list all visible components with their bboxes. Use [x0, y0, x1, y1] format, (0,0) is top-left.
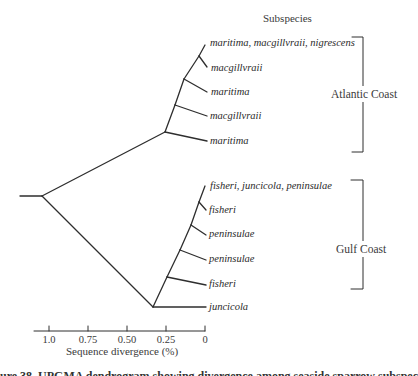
- axis-tick-label: 0.25: [157, 334, 175, 345]
- axis-tick-label: 0.50: [118, 334, 136, 345]
- subspecies-header: Subspecies: [263, 12, 312, 24]
- leaf-label: peninsulae: [209, 228, 255, 240]
- axis-title: Sequence divergence (%): [66, 345, 178, 357]
- axis-tick-label: 0.75: [79, 334, 97, 345]
- figure-caption: ure 38. UPGMA dendrogram showing diverge…: [0, 367, 418, 376]
- leaf-label: maritima: [210, 135, 249, 147]
- gulf-coast-label: Gulf Coast: [336, 241, 386, 257]
- leaf-label: fisheri: [209, 204, 236, 216]
- leaf-label: fisheri, juncicola, peninsulae: [210, 180, 332, 192]
- leaf-label: peninsulae: [209, 253, 255, 265]
- dendrogram: [0, 0, 418, 376]
- branch-gulf: [42, 196, 153, 307]
- branch-atlantic: [42, 132, 165, 196]
- leaf-label: macgillvraii: [210, 110, 261, 122]
- atlantic-coast-label: Atlantic Coast: [331, 86, 397, 102]
- axis-tick-label: 0: [202, 334, 207, 345]
- leaf-label: maritima: [211, 86, 250, 98]
- leaf-label: fisheri: [209, 278, 236, 290]
- leaf-label: macgillvraii: [211, 62, 262, 74]
- leaf-label: maritima, macgillvraii, nigrescens: [210, 37, 355, 49]
- leaf-label: juncicola: [209, 301, 248, 313]
- gulf-bracket: [351, 180, 363, 289]
- axis-tick-label: 1.0: [42, 334, 55, 345]
